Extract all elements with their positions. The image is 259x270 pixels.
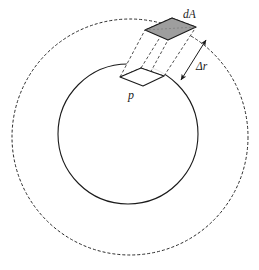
label-dA: dA: [183, 8, 197, 20]
label-point-p: p: [127, 88, 134, 102]
label-delta-r: Δr: [195, 60, 208, 72]
physics-diagram-figure: dA Δr p: [0, 0, 259, 270]
inner-solid-sphere: [58, 64, 198, 204]
sphere-shell-diagram-canvas: dA Δr p: [0, 0, 259, 270]
outer-dashed-sphere: [12, 19, 248, 255]
